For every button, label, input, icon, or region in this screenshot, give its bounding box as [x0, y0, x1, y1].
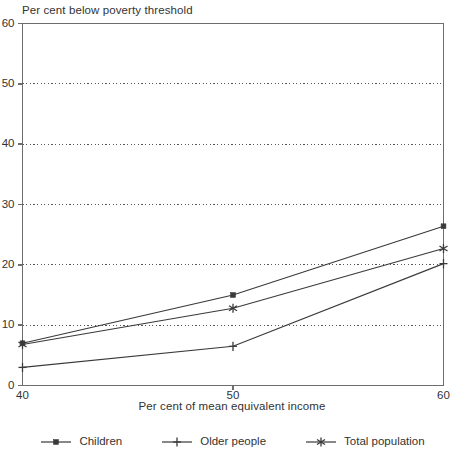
- asterisk-marker-icon: [304, 435, 338, 449]
- series-older-people: [19, 259, 448, 372]
- plus-marker-icon: [229, 342, 237, 351]
- legend-label: Older people: [200, 436, 266, 448]
- y-tick-label-30: 30: [0, 198, 15, 210]
- asterisk-marker-icon: [440, 244, 448, 253]
- x-tick-label-50: 50: [218, 389, 248, 401]
- square-marker-icon: [39, 435, 73, 449]
- chart-container: Per cent below poverty threshold 0102030…: [0, 0, 464, 458]
- plus-marker-icon: [160, 435, 194, 449]
- data-series-group: [19, 224, 448, 372]
- x-tick-label-60: 60: [429, 389, 459, 401]
- legend-label: Children: [79, 436, 122, 448]
- y-tick-label-60: 60: [0, 17, 15, 29]
- tick-marks-group: [18, 24, 234, 390]
- plus-marker-icon: [440, 259, 448, 268]
- legend-label: Total population: [344, 436, 425, 448]
- plus-marker-icon: [19, 363, 27, 372]
- legend-item-children[interactable]: Children: [39, 435, 122, 449]
- y-tick-label-50: 50: [0, 77, 15, 89]
- y-tick-label-10: 10: [0, 318, 15, 330]
- legend-item-total-population[interactable]: Total population: [304, 435, 425, 449]
- series-line: [23, 226, 444, 343]
- x-axis-title: Per cent of mean equivalent income: [0, 400, 464, 412]
- series-line: [23, 264, 444, 368]
- plus-marker-icon: [173, 437, 181, 446]
- y-tick-label-40: 40: [0, 137, 15, 149]
- square-marker-icon: [231, 293, 236, 298]
- chart-legend: ChildrenOlder peopleTotal population: [0, 430, 464, 454]
- y-tick-label-20: 20: [0, 258, 15, 270]
- square-marker-icon: [54, 440, 59, 445]
- axes-group: [23, 24, 444, 386]
- legend-item-older-people[interactable]: Older people: [160, 435, 266, 449]
- series-children: [20, 224, 446, 346]
- square-marker-icon: [441, 224, 446, 229]
- x-tick-label-40: 40: [8, 389, 38, 401]
